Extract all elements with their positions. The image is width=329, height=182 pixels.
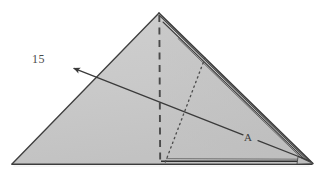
bottom-layer-edge-2 <box>166 159 304 160</box>
step-number-label: 15 <box>32 53 45 65</box>
origami-fold-diagram: 15 A <box>0 0 329 182</box>
point-a-label: A <box>244 132 252 143</box>
figure-canvas <box>0 0 329 182</box>
